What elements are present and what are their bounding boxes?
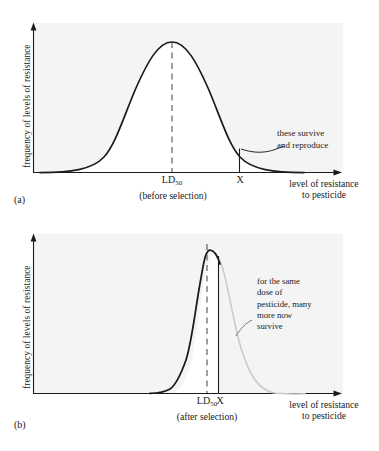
panel-a-callout: these surviveand reproduce — [277, 128, 328, 151]
panel-b-x-axis-label: level of resistanceto pesticide — [268, 399, 379, 421]
panel-a-ld50-text: LD — [162, 174, 175, 185]
panel-a-callout-line1: these survive — [277, 128, 324, 138]
panel-b-callout-line2: dose of — [257, 287, 282, 297]
panel-a-y-axis-label: frequency of levels of resistance — [22, 44, 32, 168]
panel-b: frequency of levels of resistance LD50 X… — [0, 226, 379, 451]
panel-a-ld50-subscript: 50 — [175, 179, 182, 187]
panel-a-x-axis-label-line2: to pesticide — [302, 189, 346, 200]
panel-a-x-axis-label: level of resistanceto pesticide — [268, 178, 379, 200]
panel-b-callout-line3: pesticide, many — [257, 299, 312, 309]
panel-b-callout: for the samedose ofpesticide, manymore n… — [257, 276, 312, 333]
panel-b-callout-line4: more now — [257, 310, 292, 320]
panel-b-x-axis-label-line1: level of resistance — [289, 399, 358, 410]
panel-b-callout-line1: for the same — [257, 276, 300, 286]
panel-a-callout-line2: and reproduce — [277, 140, 328, 150]
panel-a-ld50-label: LD50 — [148, 175, 196, 187]
panel-b-letter: (b) — [14, 420, 26, 431]
panel-b-x-axis-label-line2: to pesticide — [302, 410, 346, 421]
figure-root: frequency of levels of resistance LD50 X… — [0, 0, 379, 451]
panel-a: frequency of levels of resistance LD50 X… — [0, 0, 379, 226]
panel-a-subcaption: (before selection) — [112, 191, 234, 201]
panel-b-y-axis-label: frequency of levels of resistance — [22, 265, 32, 389]
panel-b-subcaption: (after selection) — [147, 412, 267, 422]
panel-b-ld50-text: LD — [197, 395, 210, 406]
panel-a-letter: (a) — [14, 195, 25, 206]
panel-b-x-marker-label: X — [211, 396, 229, 407]
panel-a-x-marker-label: X — [228, 175, 252, 186]
panel-b-callout-line5: survive — [257, 321, 283, 331]
panel-a-x-axis-label-line1: level of resistance — [289, 178, 358, 189]
